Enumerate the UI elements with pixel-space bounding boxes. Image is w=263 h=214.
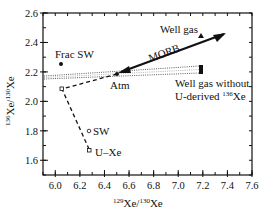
x-tick-label: 7.2 — [196, 180, 209, 191]
y-tick-label: 1.6 — [25, 155, 38, 166]
morb-label: MORB — [147, 42, 182, 64]
y-tick-label: 2.4 — [25, 37, 39, 48]
y-axis-title: 136Xe/130Xe — [4, 76, 16, 126]
well-gas-without-label-2: U-derived 136Xe — [175, 90, 246, 102]
x-tick-label: 6.2 — [73, 180, 86, 191]
y-tick-label: 2.6 — [25, 8, 38, 19]
x-tick-label: 6.4 — [98, 180, 112, 191]
x-tick-label: 7.6 — [245, 180, 258, 191]
x-tick-label: 7.0 — [172, 180, 185, 191]
x-tick-label: 6.0 — [49, 180, 62, 191]
atm-label: Atm — [110, 79, 130, 91]
well-gas-label: Well gas — [160, 23, 198, 35]
x-tick-label: 6.8 — [147, 180, 160, 191]
uxe-point — [88, 149, 92, 153]
frac-sw-label: Frac SW — [55, 48, 94, 60]
atm-point — [115, 72, 119, 76]
well-gas-without-label-1: Well gas without — [175, 77, 249, 89]
well-gas-without-bar — [199, 65, 203, 74]
y-tick-label: 2.2 — [25, 67, 38, 78]
y-tick-label: 1.8 — [25, 126, 38, 137]
well-gas-point — [198, 33, 204, 38]
uxe-label: U–Xe — [95, 146, 121, 158]
mix-end-square — [60, 87, 64, 91]
x-axis: 6.06.26.46.66.87.07.27.47.6 — [43, 13, 259, 191]
sw-point — [87, 129, 91, 133]
x-tick-label: 7.4 — [221, 180, 235, 191]
x-tick-label: 6.6 — [122, 180, 135, 191]
frac-sw-point — [59, 62, 63, 66]
y-tick-label: 2.0 — [25, 96, 38, 107]
x-axis-title: 129Xe/130Xe — [113, 197, 163, 209]
xe-isotope-chart: 1.61.82.02.22.42.6 6.06.26.46.66.87.07.2… — [0, 0, 263, 214]
dashed-mixing-line — [62, 74, 117, 149]
sw-label: SW — [93, 125, 110, 137]
